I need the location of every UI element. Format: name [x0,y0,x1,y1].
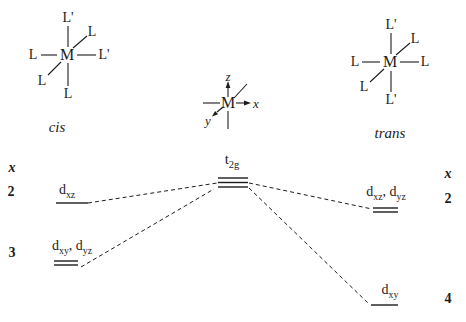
trans-ligand-top-right-label: L [411,32,420,46]
x-axis-arrowhead [244,101,251,106]
orbital-subscript: xz [66,189,75,200]
correlation-connectors [81,183,372,304]
trans-ligand-bottom-left-label: L [360,80,369,94]
cis-ligand-top-right-label: L [88,25,97,39]
trans-metal-label: M [383,54,397,70]
cis-bond-top-right [73,36,87,48]
energy-level-lines [54,178,398,305]
cis-ligand-bottom-label: L [64,87,73,101]
cis-dxz-orbital-label: dxz [59,183,75,200]
cis-upper-degeneracy-count: 2 [8,185,15,199]
cis-isomer-label: cis [49,120,66,135]
trans-dxy-orbital-label: dxy [382,283,399,300]
trans-ligand-right-label: L [421,55,430,69]
cis-lower-degeneracy-count: 3 [9,246,16,260]
trans-ligand-left-label: L [351,55,360,69]
cis-ligand-left-label: L [29,48,38,62]
orbital-text: d [366,184,373,199]
z-axis-label: z [225,70,230,83]
orbital-text: , d [69,238,83,253]
orbital-splitting-figure: L' L L L' L L M cis L' L L L L L' M tran… [0,0,466,322]
connector-t2g-to-trans-dxy [249,188,369,304]
connector-t2g-to-cis-dxy-dyz [81,189,214,267]
trans-ligand-bottom-label: L' [385,93,396,107]
orbital-text: d [59,182,66,197]
trans-bond-top-right [396,43,410,55]
axes-metal-label: M [221,95,235,111]
trans-dxz-dyz-orbital-label: dxz, dyz [366,185,406,202]
connector-t2g-to-trans-dxz-dyz [249,183,372,209]
cis-bond-bottom-left [48,62,61,75]
orbital-subscript: xy [389,289,399,300]
orbital-subscript: yz [83,245,92,256]
cis-ligand-top-label: L' [62,11,73,25]
cis-ligand-right-label: L' [98,48,109,62]
orbital-subscript: yz [397,191,406,202]
trans-isomer-label: trans [375,126,406,141]
orbital-text: d [52,238,59,253]
orbital-subscript: xz [373,191,382,202]
orbital-text: , d [383,184,397,199]
connector-t2g-to-cis-dxz [88,183,217,203]
trans-upper-degeneracy-count: 2 [445,192,452,206]
t2g-level-label: t2g [225,152,240,171]
orbital-text: d [382,282,389,297]
trans-ligand-top-label: L' [385,18,396,32]
cis-dxy-dyz-orbital-label: dxy, dyz [52,239,92,256]
x-axis-label: x [253,97,259,110]
cis-metal-label: M [60,47,74,63]
axes-plain-diagonal-line [234,84,247,98]
y-axis-label: y [205,114,211,127]
t2g-subscript-text: 2g [229,159,240,170]
trans-bond-bottom-left [370,69,384,82]
trans-degeneracy-header: x [445,167,452,181]
trans-lower-degeneracy-count: 4 [445,292,452,306]
orbital-subscript: xy [59,245,69,256]
cis-ligand-bottom-left-label: L [38,74,47,88]
cis-degeneracy-header: x [9,161,16,175]
